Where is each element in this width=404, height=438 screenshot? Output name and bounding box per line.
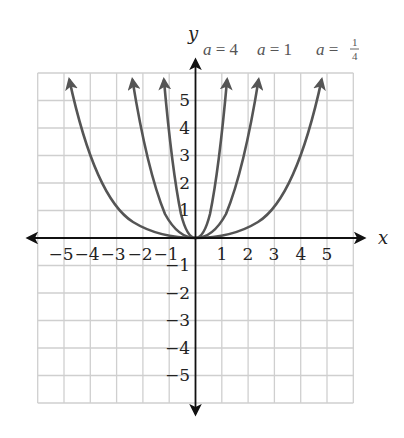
label-a-1: a = 1 [257,40,292,59]
svg-text:3: 3 [179,145,190,165]
svg-text:5: 5 [179,90,190,110]
svg-text:−1: −1 [165,255,190,275]
svg-text:4: 4 [296,244,307,264]
label-a-4: a = 4 [203,40,239,59]
y-axis-label: y [187,23,199,44]
svg-text:5: 5 [322,244,333,264]
curve-a-quarter [196,80,322,238]
svg-text:−5: −5 [165,365,190,385]
svg-text:−2: −2 [127,244,152,264]
svg-text:−3: −3 [165,310,190,330]
svg-text:2: 2 [243,244,254,264]
svg-text:2: 2 [179,173,190,193]
svg-text:−2: −2 [165,283,190,303]
label-a-quarter-den: 4 [352,50,358,62]
svg-text:3: 3 [269,244,280,264]
parabola-chart: x y a = 4 a = 1 a = 1 4 −5 −4 −3 −2 −1 1… [0,0,404,438]
svg-text:1: 1 [217,244,228,264]
svg-text:−3: −3 [100,244,125,264]
svg-text:−4: −4 [74,244,99,264]
label-a-quarter: a = [316,40,338,59]
x-axis-label: x [378,227,388,248]
svg-text:4: 4 [179,118,190,138]
x-tick-labels: −5 −4 −3 −2 −1 1 2 3 4 5 [48,244,332,264]
svg-text:−4: −4 [165,338,190,358]
curve-a-one [196,80,259,238]
label-a-quarter-num: 1 [352,36,358,48]
curve-a-quarter-left [69,80,195,238]
svg-text:−5: −5 [48,244,73,264]
svg-text:1: 1 [179,200,190,220]
